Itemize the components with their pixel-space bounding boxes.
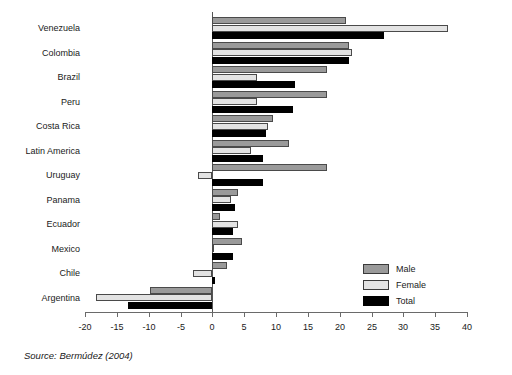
- category-label: Panama: [2, 195, 80, 205]
- x-axis-tick-label: 20: [325, 322, 355, 333]
- bar-group: [85, 114, 467, 139]
- bar-total: [212, 81, 295, 88]
- x-axis-tick: [276, 312, 277, 317]
- bar-male: [212, 91, 327, 98]
- legend-swatch-icon: [363, 264, 389, 274]
- legend-swatch-icon: [363, 280, 389, 290]
- legend-item: Female: [363, 278, 455, 292]
- category-label: Venezuela: [2, 23, 80, 33]
- bar-female: [212, 123, 268, 130]
- bar-female: [212, 196, 231, 203]
- x-axis-tick-label: 15: [293, 322, 323, 333]
- bar-chart-figure: VenezuelaColombiaBrazilPeruCosta RicaLat…: [0, 0, 512, 375]
- bar-total: [212, 253, 232, 260]
- bar-group: [85, 16, 467, 41]
- x-axis-tick: [181, 312, 182, 317]
- x-axis-tick: [340, 312, 341, 317]
- x-axis-tick-label: 35: [420, 322, 450, 333]
- x-axis-tick-label: 30: [388, 322, 418, 333]
- bar-group: [85, 237, 467, 262]
- category-label: Colombia: [2, 48, 80, 58]
- bar-male: [212, 213, 220, 220]
- category-label: Latin America: [2, 146, 80, 156]
- bar-female: [212, 49, 352, 56]
- x-axis-tick: [212, 312, 213, 317]
- category-axis-labels: VenezuelaColombiaBrazilPeruCosta RicaLat…: [0, 12, 80, 316]
- source-note: Source: Bermúdez (2004): [24, 350, 133, 361]
- x-axis-tick: [149, 312, 150, 317]
- bar-total: [212, 32, 384, 39]
- bar-group: [85, 188, 467, 213]
- chart-legend: MaleFemaleTotal: [363, 262, 455, 310]
- legend-item: Total: [363, 294, 455, 308]
- x-axis-tick-label: -5: [166, 322, 196, 333]
- legend-label: Female: [396, 280, 426, 290]
- category-label: Costa Rica: [2, 121, 80, 131]
- bar-male: [212, 140, 288, 147]
- x-axis-tick-labels: -20-15-10-50510152025303540: [85, 322, 467, 336]
- bar-group: [85, 41, 467, 66]
- bar-total: [212, 57, 349, 64]
- x-axis-tick-label: -10: [134, 322, 164, 333]
- x-axis-tick: [308, 312, 309, 317]
- bar-male: [212, 189, 237, 196]
- x-axis-tick-label: -20: [70, 322, 100, 333]
- bar-total: [212, 179, 263, 186]
- x-axis-tick-label: 25: [357, 322, 387, 333]
- bar-male: [212, 164, 327, 171]
- bar-female: [212, 221, 237, 228]
- legend-label: Male: [396, 264, 416, 274]
- legend-swatch-icon: [363, 296, 389, 306]
- x-axis-tick-label: 0: [197, 322, 227, 333]
- bar-female: [193, 270, 213, 277]
- bar-female: [212, 74, 257, 81]
- x-axis-tick: [85, 312, 86, 317]
- x-axis-tick: [372, 312, 373, 317]
- x-axis-tick-label: 5: [229, 322, 259, 333]
- bar-group: [85, 90, 467, 115]
- legend-label: Total: [396, 296, 415, 306]
- x-axis-tick-label: 40: [452, 322, 482, 333]
- x-axis-tick: [467, 312, 468, 317]
- x-axis-tick: [117, 312, 118, 317]
- bar-group: [85, 139, 467, 164]
- bar-female: [212, 98, 257, 105]
- bar-female: [212, 147, 250, 154]
- category-label: Peru: [2, 97, 80, 107]
- legend-item: Male: [363, 262, 455, 276]
- bar-male: [212, 238, 241, 245]
- category-label: Argentina: [2, 293, 80, 303]
- x-axis-tick: [244, 312, 245, 317]
- bar-male: [212, 17, 346, 24]
- bar-total: [212, 106, 292, 113]
- bar-total: [128, 302, 212, 309]
- bar-total: [212, 204, 234, 211]
- bar-group: [85, 65, 467, 90]
- bar-male: [212, 262, 227, 269]
- bar-male: [212, 42, 349, 49]
- bar-female: [212, 25, 448, 32]
- bar-female: [212, 245, 214, 252]
- x-axis-tick-label: 10: [261, 322, 291, 333]
- x-axis-tick: [403, 312, 404, 317]
- category-label: Uruguay: [2, 170, 80, 180]
- x-axis-tick-label: -15: [102, 322, 132, 333]
- bar-male: [150, 287, 212, 294]
- bar-male: [212, 66, 327, 73]
- x-axis-tick: [435, 312, 436, 317]
- bar-total: [212, 228, 233, 235]
- category-label: Chile: [2, 268, 80, 278]
- bar-group: [85, 212, 467, 237]
- bar-group: [85, 163, 467, 188]
- bar-female: [96, 294, 212, 301]
- category-label: Brazil: [2, 72, 80, 82]
- bar-total: [212, 130, 266, 137]
- bar-female: [198, 172, 212, 179]
- bar-total: [212, 277, 215, 284]
- bar-male: [212, 115, 272, 122]
- category-label: Ecuador: [2, 219, 80, 229]
- category-label: Mexico: [2, 244, 80, 254]
- bar-total: [212, 155, 263, 162]
